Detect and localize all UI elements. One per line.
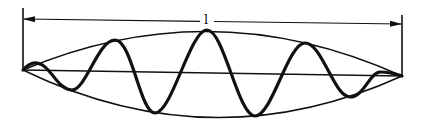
right-dimension-arrow bbox=[214, 22, 401, 25]
envelope-upper-curve bbox=[23, 31, 402, 76]
left-dimension-arrow bbox=[24, 19, 200, 21]
axis-line bbox=[23, 70, 402, 76]
length-label: l bbox=[203, 14, 209, 26]
wave-diagram bbox=[0, 0, 424, 127]
